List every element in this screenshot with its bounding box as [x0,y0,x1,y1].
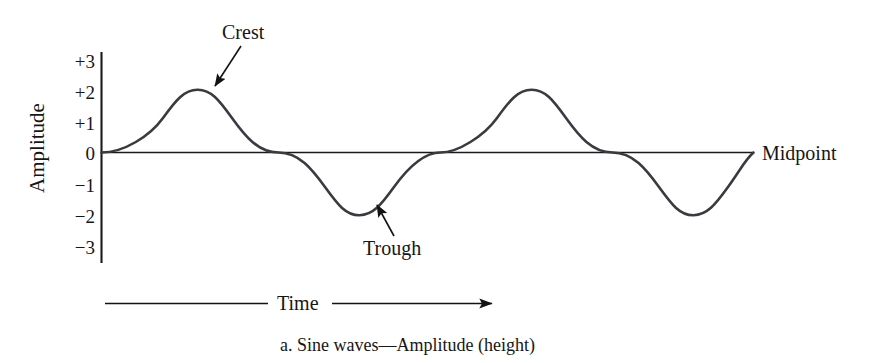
y-tick-label-minus1: −1 [55,176,95,195]
figure-caption: a. Sine waves—Amplitude (height) [280,336,535,354]
sine-wave-figure: Amplitude +3 +2 +1 0 −1 −2 −3 Crest Trou… [0,0,891,363]
y-tick-label-zero: 0 [55,144,95,163]
y-tick-label-minus2: −2 [55,207,95,226]
y-tick-label-plus2: +2 [55,83,95,102]
y-tick-label-plus1: +1 [55,114,95,133]
crest-arrow [215,46,241,86]
x-axis-title: Time [277,293,319,313]
y-axis-title: Amplitude [27,103,48,193]
trough-annotation-label: Trough [363,238,421,258]
midpoint-annotation-label: Midpoint [762,143,836,163]
wave-plot [0,0,891,363]
y-tick-label-plus3: +3 [55,52,95,71]
trough-arrow [377,205,394,236]
crest-annotation-label: Crest [222,22,264,42]
y-tick-label-minus3: −3 [55,238,95,257]
